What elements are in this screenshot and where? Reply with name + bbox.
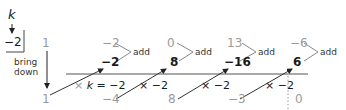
result: −3 [228,93,246,105]
divisor-value: −2 [4,36,22,48]
down-label: down [14,68,38,77]
add-label: add [195,48,212,57]
coefficient: −6 [290,37,308,49]
add-label: add [258,48,275,57]
bring-label: bring [14,58,37,67]
coefficient: 0 [167,37,175,49]
result: 8 [168,93,176,105]
coefficient: 13 [227,37,242,49]
multiply-label: × −2 [265,80,294,91]
multiply-k-label: × k = −2 [74,80,126,91]
product: 8 [170,56,178,68]
multiply-label: × −2 [201,80,230,91]
result: −4 [102,93,120,105]
product: −16 [224,56,251,68]
product: 6 [293,56,301,68]
result: 1 [42,93,50,105]
add-label: add [320,48,337,57]
product: −2 [101,56,119,68]
multiply-label: × −2 [139,80,168,91]
coefficient: −2 [102,37,120,49]
coefficient: 1 [42,37,50,49]
add-label: add [133,48,150,57]
remainder: 0 [295,93,303,105]
k-label: k [8,8,16,21]
